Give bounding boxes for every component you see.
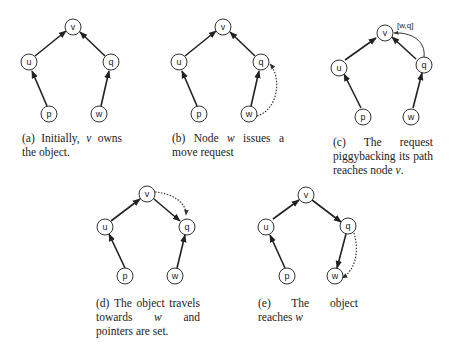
svg-text:p: p (284, 271, 289, 281)
panel-b: v u q p w (b) Node w issues a move reque… (150, 0, 300, 170)
tree-graph-c: [w,q] v u q p w (300, 0, 450, 125)
tree-graph-b: v u q p w (150, 0, 300, 125)
svg-text:u: u (336, 63, 341, 73)
caption-d: (d) The object travels towards w and poi… (96, 296, 200, 338)
node-label-v: v (71, 22, 76, 32)
svg-text:v: v (304, 190, 309, 200)
svg-text:w: w (407, 112, 415, 122)
path-label: [w,q] (397, 21, 413, 30)
panel-e: v u q p w (e) The object reaches w (220, 170, 370, 346)
edge-w-q (101, 71, 109, 106)
caption-a: (a) Initially, v owns the object. (22, 131, 122, 159)
svg-text:q: q (258, 57, 263, 67)
svg-text:p: p (196, 109, 201, 119)
request-arrow-w-q (257, 64, 277, 116)
tree-graph-a: v u q p w (0, 0, 150, 125)
svg-text:q: q (184, 222, 189, 232)
edge-q-v (80, 32, 105, 56)
svg-text:p: p (360, 112, 365, 122)
svg-text:q: q (421, 60, 426, 70)
edge-p-u (32, 71, 47, 106)
svg-text:q: q (345, 221, 350, 231)
edge-u-v (35, 31, 66, 56)
caption-b: (b) Node w issues a move request (172, 131, 284, 159)
tree-graph-e: v u q p w (220, 170, 370, 295)
node-label-p: p (46, 109, 51, 119)
node-label-q: q (108, 57, 113, 67)
object-move-arrow-q-w (342, 230, 356, 278)
svg-text:v: v (383, 28, 388, 38)
panel-a: v u q p w (a) Initially, v owns the obje… (0, 0, 150, 170)
svg-text:u: u (263, 222, 268, 232)
svg-text:u: u (102, 222, 107, 232)
svg-text:p: p (122, 271, 127, 281)
svg-text:w: w (331, 271, 339, 281)
svg-text:v: v (145, 189, 150, 199)
svg-text:w: w (171, 271, 179, 281)
node-label-u: u (26, 57, 31, 67)
svg-text:u: u (176, 57, 181, 67)
caption-e: (e) The object reaches w (258, 296, 358, 324)
panel-c: [w,q] v u q p w (c) The request piggybac… (300, 0, 450, 170)
tree-graph-d: v u q p w (70, 170, 220, 295)
svg-text:v: v (221, 22, 226, 32)
node-label-w: w (95, 109, 103, 119)
panel-d: v u q p w (d) The object travels towards… (70, 170, 220, 346)
svg-text:w: w (245, 109, 253, 119)
